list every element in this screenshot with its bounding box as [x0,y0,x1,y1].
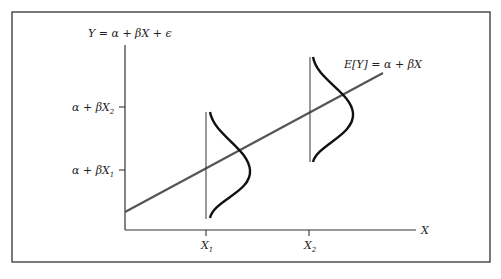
regression-line [125,73,383,212]
x-tick-label-1: X1 [200,239,213,254]
x-tick-label-2: X2 [303,239,317,254]
y-tick-label-2: α + βX2 [72,101,115,116]
y-tick-label-1: α + βX1 [72,164,114,179]
regression-line-label: E[Y] = α + βX [343,58,423,71]
density-curve-x2 [313,57,353,162]
density-curve-x1 [210,112,250,218]
regression-diagram: Y = α + βX + ϵ E[Y] = α + βX X α + βX2 α… [0,0,501,279]
x-axis-label: X [420,224,430,237]
model-equation-label: Y = α + βX + ϵ [88,27,172,40]
outer-frame [12,12,490,262]
